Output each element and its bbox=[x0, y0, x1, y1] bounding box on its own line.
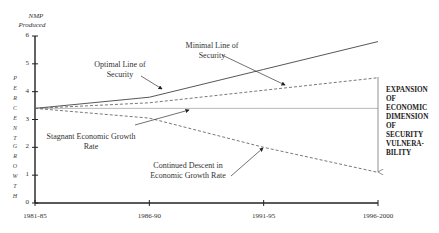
y-tick-label: 1 bbox=[19, 170, 29, 178]
y-label-letter: P bbox=[10, 75, 20, 82]
y-label-produced: Produced bbox=[12, 21, 52, 29]
y-label-letter: C bbox=[10, 105, 20, 112]
y-label-letter: E bbox=[10, 85, 20, 92]
y-tick-label: 3 bbox=[19, 115, 29, 123]
label-optimal: Optimal Line of Security bbox=[80, 60, 160, 80]
annotation-line: SECURITY bbox=[386, 131, 428, 140]
annotation-line: VULNERA- bbox=[386, 140, 428, 149]
label-descent: Continued Descent in Economic Growth Rat… bbox=[146, 161, 230, 181]
descent-arrow bbox=[231, 148, 263, 176]
label-descent-line1: Continued Descent in bbox=[146, 161, 230, 171]
label-stagnant-line1: Stagnant Economic Growth bbox=[38, 132, 144, 142]
y-tick-label: 5 bbox=[19, 59, 29, 67]
label-descent-line2: Economic Growth Rate bbox=[146, 171, 230, 181]
label-stagnant-line2: Rate bbox=[38, 142, 144, 152]
y-tick-label: 2 bbox=[19, 142, 29, 150]
annotation-line: ECONOMIC bbox=[386, 104, 428, 113]
label-optimal-line1: Optimal Line of bbox=[80, 60, 160, 70]
label-minimal-line2: Security bbox=[172, 51, 252, 61]
y-label-letter: W bbox=[10, 173, 20, 180]
y-label-letter: G bbox=[10, 143, 20, 150]
label-minimal: Minimal Line of Security bbox=[172, 41, 252, 61]
y-tick-label: 0 bbox=[19, 198, 29, 206]
annotation-line: OF bbox=[386, 95, 428, 104]
annotation-line: DIMENSION bbox=[386, 113, 428, 122]
label-optimal-line2: Security bbox=[80, 70, 160, 80]
y-label-letter: O bbox=[10, 163, 20, 170]
y-label-letter: T bbox=[10, 183, 20, 190]
y-label-letter: H bbox=[10, 193, 20, 200]
y-tick-label: 6 bbox=[19, 31, 29, 39]
vulnerability-annotation: EXPANSIONOFECONOMICDIMENSIONOFSECURITYVU… bbox=[386, 86, 428, 158]
label-minimal-line1: Minimal Line of bbox=[172, 41, 252, 51]
y-label-letter: R bbox=[10, 153, 20, 160]
x-tick-label: 1981-85 bbox=[10, 212, 60, 220]
label-stagnant: Stagnant Economic Growth Rate bbox=[38, 132, 144, 152]
y-label-letter: R bbox=[10, 95, 20, 102]
annotation-line: EXPANSION bbox=[386, 86, 428, 95]
y-label-letter: T bbox=[10, 135, 20, 142]
annotation-line: BILITY bbox=[386, 149, 428, 158]
y-tick-label: 4 bbox=[19, 87, 29, 95]
y-label-letter: N bbox=[10, 125, 20, 132]
line-chart bbox=[0, 0, 439, 233]
stagnant-arrow bbox=[135, 110, 189, 125]
x-tick-label: 1991-95 bbox=[239, 212, 289, 220]
y-label-nmp: NMP bbox=[18, 12, 54, 20]
x-tick-label: 1986-90 bbox=[124, 212, 174, 220]
annotation-line: OF bbox=[386, 122, 428, 131]
x-tick-label: 1996-2000 bbox=[353, 212, 403, 220]
y-label-letter: E bbox=[10, 115, 20, 122]
